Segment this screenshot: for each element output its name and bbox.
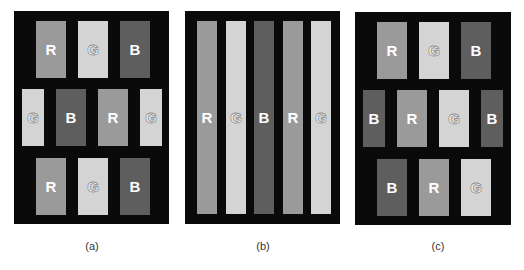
panel-a-subpixel-r: R xyxy=(36,158,66,215)
panel-b-caption: (b) xyxy=(256,240,269,252)
panel-c-subpixel-r: R xyxy=(419,159,449,216)
panel-c-subpixel-b: B xyxy=(377,159,407,216)
stripe-label: G xyxy=(315,110,327,125)
stripe-label: G xyxy=(230,110,242,125)
subpixel-label: G xyxy=(87,179,99,194)
panel-c-subpixel-r: R xyxy=(377,22,407,79)
subpixel-label: B xyxy=(369,111,380,126)
panel-a-subpixel-b: B xyxy=(56,89,86,146)
subpixel-label: G xyxy=(470,180,482,195)
stripe-label: R xyxy=(288,110,299,125)
panel-a-caption: (a) xyxy=(85,240,98,252)
panel-b-stripe-g: G xyxy=(311,21,331,214)
panel-c-subpixel-g: G xyxy=(461,159,491,216)
stripe-label: B xyxy=(259,110,270,125)
panel-c-subpixel-g: G xyxy=(419,22,449,79)
panel-c-subpixel-g: G xyxy=(439,90,469,147)
subpixel-label: G xyxy=(145,110,157,125)
subpixel-label: G xyxy=(27,110,39,125)
panel-b-stripe-b: B xyxy=(254,21,274,214)
panel-c-subpixel-b: B xyxy=(461,22,491,79)
panel-a-subpixel-g: G xyxy=(78,158,108,215)
subpixel-label: G xyxy=(428,43,440,58)
panel-a-subpixel-g: G xyxy=(140,89,162,146)
panel-c-subpixel-r: R xyxy=(397,90,427,147)
panel-b-stripe-r: R xyxy=(283,21,303,214)
subpixel-label: B xyxy=(130,179,141,194)
subpixel-label: B xyxy=(487,111,498,126)
panel-b-stripe-r: R xyxy=(197,21,217,214)
panel-b-stripe-g: G xyxy=(226,21,246,214)
panel-c-subpixel-b: B xyxy=(481,90,503,147)
panel-a-subpixel-r: R xyxy=(98,89,128,146)
subpixel-label: R xyxy=(46,179,57,194)
subpixel-label: B xyxy=(66,110,77,125)
subpixel-label: R xyxy=(46,42,57,57)
subpixel-label: R xyxy=(429,180,440,195)
subpixel-label: B xyxy=(471,43,482,58)
subpixel-label: G xyxy=(448,111,460,126)
subpixel-label: R xyxy=(387,43,398,58)
subpixel-label: R xyxy=(108,110,119,125)
panel-a-subpixel-b: B xyxy=(120,21,150,78)
panel-a-subpixel-b: B xyxy=(120,158,150,215)
panel-c-subpixel-b: B xyxy=(363,90,385,147)
panel-c-caption: (c) xyxy=(432,240,445,252)
subpixel-label: R xyxy=(407,111,418,126)
subpixel-label: G xyxy=(87,42,99,57)
subpixel-label: B xyxy=(130,42,141,57)
panel-a-subpixel-g: G xyxy=(78,21,108,78)
panel-a-subpixel-g: G xyxy=(22,89,44,146)
panel-a-subpixel-r: R xyxy=(36,21,66,78)
stripe-label: R xyxy=(202,110,213,125)
subpixel-label: B xyxy=(387,180,398,195)
